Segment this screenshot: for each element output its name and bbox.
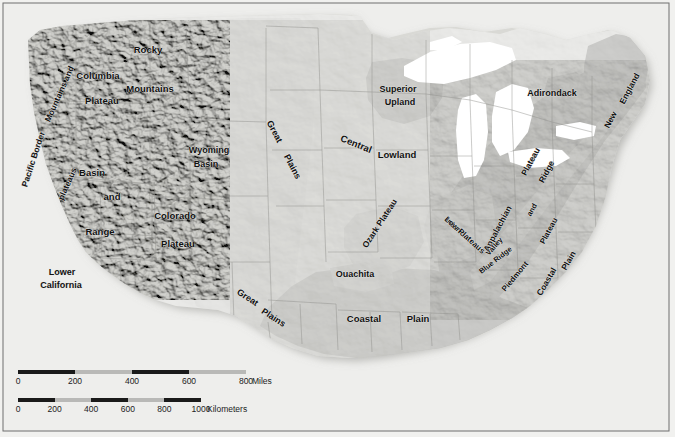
map-label-rocky-mountains: Rocky bbox=[134, 44, 163, 55]
map-label-range: Range bbox=[85, 226, 114, 237]
map-label-lower-california: Lower bbox=[49, 267, 76, 277]
scale-bar-kilometers-tick-600: 600 bbox=[121, 404, 135, 414]
map-label-lower-california-2: California bbox=[40, 280, 83, 290]
scale-bar-miles-unit-label: Miles bbox=[252, 376, 272, 386]
scale-bar-kilometers-segment-3 bbox=[128, 398, 165, 402]
scale-bar-kilometers-tick-0: 0 bbox=[16, 404, 21, 414]
map-label-adirondack: Adirondack bbox=[527, 88, 578, 98]
map-label-basin: Basin bbox=[79, 167, 105, 178]
scale-bar-miles-tick-0: 0 bbox=[16, 376, 21, 386]
map-label-and: and bbox=[104, 191, 121, 202]
scale-bar-kilometers-segment-1 bbox=[55, 398, 92, 402]
scale-bar-miles-tick-600: 600 bbox=[182, 376, 196, 386]
map-label-wyoming-basin-2: Basin bbox=[194, 159, 219, 169]
scale-bar-miles-bar bbox=[18, 370, 278, 374]
scale-bar-miles-ticks: 0200400600800Miles bbox=[18, 376, 278, 388]
map-label-ouachita: Ouachita bbox=[336, 269, 376, 279]
scale-bar-kilometers-tick-800: 800 bbox=[157, 404, 171, 414]
map-label-coastal-plain-s2: Plain bbox=[407, 313, 430, 324]
map-label-colorado-plateau-2: Plateau bbox=[161, 238, 195, 249]
map-page: Pacific BorderMountains andplateausColum… bbox=[0, 0, 675, 437]
map-label-central-lowland-2: Lowland bbox=[378, 149, 417, 160]
scale-bar-miles-tick-800: 800 bbox=[239, 376, 253, 386]
scale-bar-miles-segment-0 bbox=[18, 370, 75, 374]
scale-bar-kilometers-bar bbox=[18, 398, 278, 402]
scale-bar-miles-tick-200: 200 bbox=[68, 376, 82, 386]
scale-bar-kilometers-segment-2 bbox=[91, 398, 128, 402]
scale-bar-miles-segment-1 bbox=[75, 370, 132, 374]
map-label-colorado-plateau: Colorado bbox=[154, 210, 196, 221]
scale-bar-miles-segment-2 bbox=[132, 370, 189, 374]
scale-bar-kilometers-ticks: 02004006008001000Kilometers bbox=[18, 404, 278, 416]
scale-bar-kilometers-segment-4 bbox=[164, 398, 201, 402]
map-label-rocky-mountains-2: Mountains bbox=[126, 83, 174, 94]
scale-bar-kilometers-unit-label: Kilometers bbox=[207, 404, 247, 414]
scale-bars: 0200400600800Miles 02004006008001000Kilo… bbox=[18, 370, 278, 422]
scale-bar-kilometers-segment-0 bbox=[18, 398, 55, 402]
map-label-coastal-plain-s: Coastal bbox=[347, 313, 381, 324]
map-label-superior-upland: Superior bbox=[379, 84, 417, 94]
scale-bar-miles-tick-400: 400 bbox=[125, 376, 139, 386]
map-label-columbia-plateau-2: Plateau bbox=[85, 95, 119, 106]
scale-bar-kilometers-tick-400: 400 bbox=[84, 404, 98, 414]
map-label-superior-upland-2: Upland bbox=[385, 97, 416, 107]
map-label-wyoming-basin: Wyoming bbox=[189, 145, 229, 155]
scale-bar-kilometers-tick-200: 200 bbox=[48, 404, 62, 414]
map-label-columbia-plateau: Columbia bbox=[76, 70, 120, 81]
scale-bar-miles-segment-3 bbox=[189, 370, 246, 374]
